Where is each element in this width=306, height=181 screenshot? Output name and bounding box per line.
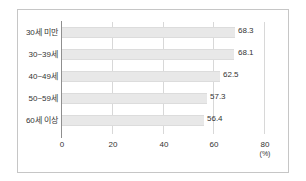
category-label: 30세 미만 bbox=[18, 22, 58, 44]
bar bbox=[62, 27, 235, 38]
bar-row: 30~39세 68.1 bbox=[18, 44, 288, 66]
bar-value-label: 56.4 bbox=[207, 114, 223, 123]
x-axis-unit-label: (%) bbox=[253, 150, 277, 157]
bar-chart-plot-area: 30세 미만 68.3 30~39세 68.1 40~49세 62.5 50~5… bbox=[18, 10, 288, 172]
bar-track bbox=[62, 49, 264, 60]
category-label: 60세 이상 bbox=[18, 110, 58, 132]
bar-row: 40~49세 62.5 bbox=[18, 66, 288, 88]
bar-track bbox=[62, 27, 264, 38]
category-label: 50~59세 bbox=[18, 88, 58, 110]
bar-row: 50~59세 57.3 bbox=[18, 88, 288, 110]
bar-track bbox=[62, 93, 264, 104]
x-axis-tick-label: 0 bbox=[50, 140, 74, 149]
category-label: 40~49세 bbox=[18, 66, 58, 88]
bar-value-label: 68.1 bbox=[238, 48, 254, 57]
x-axis-tick-label: 80 bbox=[253, 140, 277, 149]
bar-track bbox=[62, 115, 264, 126]
clipped-header-text-content: ·· ·· ·· ·· ·· ·· ·· ·· ·· ·· ·· ·· ·· ·… bbox=[0, 0, 306, 3]
bar-value-label: 62.5 bbox=[223, 70, 239, 79]
bar-value-label: 57.3 bbox=[210, 92, 226, 101]
bar-row: 30세 미만 68.3 bbox=[18, 22, 288, 44]
chart-frame: 30세 미만 68.3 30~39세 68.1 40~49세 62.5 50~5… bbox=[17, 9, 289, 173]
x-axis-tick-label: 40 bbox=[152, 140, 176, 149]
clipped-header-text: ·· ·· ·· ·· ·· ·· ·· ·· ·· ·· ·· ·· ·· ·… bbox=[0, 0, 306, 7]
bar bbox=[62, 71, 220, 82]
category-label: 30~39세 bbox=[18, 44, 58, 66]
bar-value-label: 68.3 bbox=[238, 26, 254, 35]
x-axis-tick-label: 20 bbox=[101, 140, 125, 149]
bar bbox=[62, 49, 234, 60]
bar bbox=[62, 115, 204, 126]
x-axis-tick-label: 60 bbox=[202, 140, 226, 149]
bar bbox=[62, 93, 207, 104]
bar-row: 60세 이상 56.4 bbox=[18, 110, 288, 132]
